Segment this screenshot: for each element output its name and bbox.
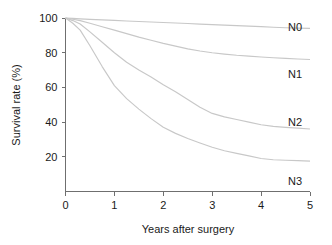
series-label-n0: N0 — [288, 21, 302, 33]
chart-canvas: 20406080100 012345 N0N1N2N3 Years after … — [0, 0, 332, 245]
x-tick-label: 4 — [258, 199, 264, 211]
y-tick-label: 80 — [45, 47, 57, 59]
x-tick-label: 3 — [209, 199, 215, 211]
x-tick-label: 2 — [160, 199, 166, 211]
x-axis-title: Years after surgery — [142, 223, 235, 235]
series-labels: N0N1N2N3 — [288, 21, 302, 187]
series-lines — [66, 18, 311, 161]
y-tick-label: 20 — [45, 151, 57, 163]
y-tick-label: 40 — [45, 116, 57, 128]
x-tick-label: 5 — [307, 199, 313, 211]
survival-curve-chart: 20406080100 012345 N0N1N2N3 Years after … — [0, 0, 332, 245]
y-tick-label: 60 — [45, 81, 57, 93]
series-label-n2: N2 — [288, 116, 302, 128]
y-tick-label: 100 — [39, 12, 57, 24]
series-line-n3 — [66, 18, 311, 161]
x-axis-ticks: 012345 — [62, 192, 313, 211]
series-label-n1: N1 — [288, 68, 302, 80]
y-axis-title: Survival rate (%) — [10, 64, 22, 145]
series-line-n2 — [66, 18, 311, 129]
series-label-n3: N3 — [288, 175, 302, 187]
axes-group — [65, 18, 310, 192]
y-axis-ticks: 20406080100 — [39, 12, 65, 163]
x-tick-label: 1 — [111, 199, 117, 211]
x-tick-label: 0 — [62, 199, 68, 211]
series-line-n1 — [66, 18, 311, 59]
